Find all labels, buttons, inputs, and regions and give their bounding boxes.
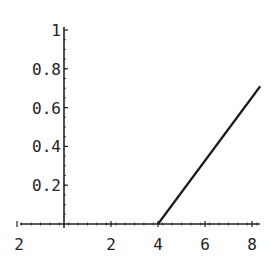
y-tick-label: 0.6 xyxy=(32,99,61,118)
line-chart: 224680.20.40.60.81 xyxy=(0,0,273,260)
series-line xyxy=(158,86,260,224)
x-tick-label: 6 xyxy=(200,235,210,254)
series xyxy=(158,86,260,224)
y-tick-label: 0.4 xyxy=(32,137,61,156)
x-tick-label: 2 xyxy=(14,235,24,254)
x-tick-label: 2 xyxy=(106,235,116,254)
y-tick-label: 0.2 xyxy=(32,176,61,195)
tick-labels: 224680.20.40.60.81 xyxy=(14,21,257,254)
axes xyxy=(17,27,260,228)
y-tick-label: 0.8 xyxy=(32,60,61,79)
x-tick-label: 8 xyxy=(247,235,257,254)
x-tick-label: 4 xyxy=(153,235,163,254)
y-tick-label: 1 xyxy=(51,21,61,40)
